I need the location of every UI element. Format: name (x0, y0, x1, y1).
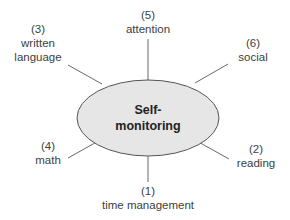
node-social: (6) social (238, 36, 267, 64)
node-attention: (5) attention (126, 8, 170, 36)
node-number: (1) (102, 184, 194, 198)
node-label-line2: language (14, 50, 61, 64)
node-reading: (2) reading (237, 142, 275, 170)
node-label: reading (237, 156, 275, 170)
node-number: (3) (14, 22, 61, 36)
connector-written-language (68, 65, 102, 84)
node-label: attention (126, 22, 170, 36)
node-number: (5) (126, 8, 170, 22)
node-label-line1: written (14, 36, 61, 50)
node-label: math (35, 153, 61, 167)
connector-social (195, 64, 228, 83)
node-written-language: (3) written language (14, 22, 61, 64)
node-time-management: (1) time management (102, 184, 194, 212)
node-label: social (238, 50, 267, 64)
center-label-line2: monitoring (115, 118, 180, 134)
node-number: (2) (237, 142, 275, 156)
node-number: (6) (238, 36, 267, 50)
node-math: (4) math (35, 139, 61, 167)
center-label: Self- monitoring (115, 102, 180, 134)
node-label: time management (102, 198, 194, 212)
node-number: (4) (35, 139, 61, 153)
center-label-line1: Self- (115, 102, 180, 118)
